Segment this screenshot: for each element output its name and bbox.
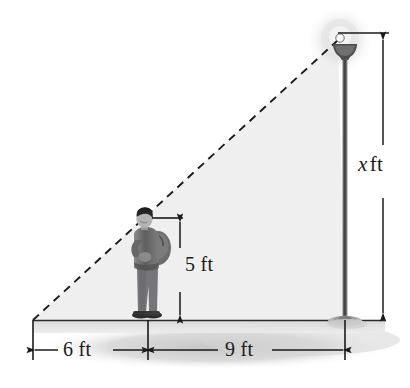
geometry-figure: xft 5 ft 6 ft 9 ft bbox=[0, 0, 410, 388]
label-6-ft: 6 ft bbox=[63, 338, 91, 361]
label-x-variable: x bbox=[358, 152, 370, 176]
label-x-unit: ft bbox=[370, 152, 383, 176]
figure-canvas bbox=[0, 0, 410, 388]
label-x-ft: xft bbox=[358, 152, 383, 177]
label-5-ft: 5 ft bbox=[185, 253, 213, 276]
label-9-ft: 9 ft bbox=[225, 338, 253, 361]
